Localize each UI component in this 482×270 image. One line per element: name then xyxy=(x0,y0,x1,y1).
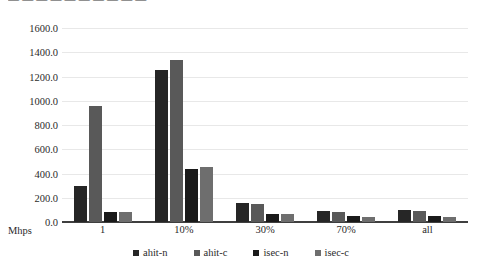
y-axis-tick-label: 200.0 xyxy=(34,192,58,203)
bar xyxy=(362,217,375,222)
bar xyxy=(251,204,264,222)
legend-label: isec-c xyxy=(325,247,349,258)
legend-item: isec-n xyxy=(253,247,288,258)
chart-title-clipped: — — — — — — — — — — xyxy=(8,0,258,5)
bar xyxy=(281,214,294,222)
legend-item: ahit-c xyxy=(194,247,228,258)
y-axis-tick-label: 1000.0 xyxy=(29,95,58,106)
bar xyxy=(413,211,426,222)
bar xyxy=(236,203,249,222)
x-axis-tick-label: 1 xyxy=(62,224,143,235)
bar-groups xyxy=(62,28,468,222)
bar-group xyxy=(62,28,143,222)
bar-group xyxy=(387,28,468,222)
y-axis-title: Mhps xyxy=(8,225,32,236)
bar xyxy=(200,167,213,222)
y-axis-tick-label: 1400.0 xyxy=(29,47,58,58)
x-axis-tick-labels: 110%30%70%all xyxy=(62,224,468,235)
legend-item: isec-c xyxy=(315,247,349,258)
y-axis-tick-label: 400.0 xyxy=(34,168,58,179)
bar xyxy=(119,212,132,222)
bar xyxy=(428,216,441,222)
bar xyxy=(443,217,456,222)
y-axis-tick-label: 0.0 xyxy=(45,217,58,228)
bar-group xyxy=(143,28,224,222)
bar-group xyxy=(306,28,387,222)
y-axis-tick-labels: 1600.01400.01200.01000.0800.0600.0400.02… xyxy=(0,28,58,222)
legend-swatch-icon xyxy=(133,250,139,256)
legend-swatch-icon xyxy=(194,250,200,256)
y-axis-tick-label: 600.0 xyxy=(34,144,58,155)
bar xyxy=(347,216,360,222)
legend-label: isec-n xyxy=(263,247,288,258)
x-axis-tick-label: 30% xyxy=(224,224,305,235)
legend-item: ahit-n xyxy=(133,247,168,258)
legend-label: ahit-n xyxy=(143,247,168,258)
x-axis-tick-label: 10% xyxy=(143,224,224,235)
y-axis-tick-label: 1200.0 xyxy=(29,71,58,82)
bar xyxy=(317,211,330,222)
bar xyxy=(170,60,183,222)
bar xyxy=(74,186,87,222)
chart-legend: ahit-nahit-cisec-nisec-c xyxy=(0,247,482,258)
bar xyxy=(104,212,117,222)
legend-swatch-icon xyxy=(253,250,259,256)
bar-group xyxy=(224,28,305,222)
x-axis-tick-label: 70% xyxy=(306,224,387,235)
legend-label: ahit-c xyxy=(204,247,228,258)
x-axis-tick-label: all xyxy=(387,224,468,235)
bar-chart: — — — — — — — — — — 1600.01400.01200.010… xyxy=(0,0,482,270)
bar xyxy=(185,169,198,222)
y-axis-tick-label: 800.0 xyxy=(34,120,58,131)
y-axis-tick-label: 1600.0 xyxy=(29,23,58,34)
bar xyxy=(266,214,279,222)
bar xyxy=(155,70,168,222)
bar xyxy=(332,212,345,222)
legend-swatch-icon xyxy=(315,250,321,256)
bar xyxy=(398,210,411,222)
bar xyxy=(89,106,102,222)
